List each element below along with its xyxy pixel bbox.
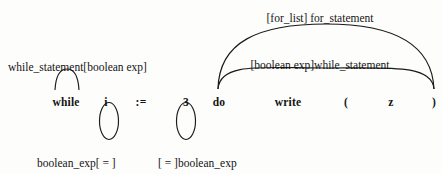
label-for-list-for-statement: [for_list] for_statement — [267, 12, 374, 25]
arc-vector-layer — [0, 0, 442, 174]
parse-arc-diagram: while i := 3 do write ( z ) [for_list] f… — [0, 0, 442, 174]
token-assign: := — [136, 96, 147, 109]
token-rparen: ) — [432, 96, 436, 109]
token-while: while — [52, 96, 79, 109]
label-while-statement-boolean-exp: while_statement[boolean exp] — [8, 61, 147, 74]
token-z: z — [388, 96, 393, 109]
token-do: do — [213, 96, 226, 109]
token-lparen: ( — [344, 96, 348, 109]
token-i: i — [104, 96, 107, 109]
label-boolean-exp-while-statement: [boolean exp]while_statement — [251, 59, 390, 72]
ellipse-under-i — [100, 103, 119, 140]
token-three: 3 — [183, 96, 189, 109]
label-eq-boolean-exp-right: [ = ]boolean_exp — [158, 157, 237, 170]
token-write: write — [275, 96, 302, 109]
label-boolean-exp-eq-left: boolean_exp[ = ] — [37, 157, 116, 170]
outer-arc-for-statement — [218, 24, 434, 89]
